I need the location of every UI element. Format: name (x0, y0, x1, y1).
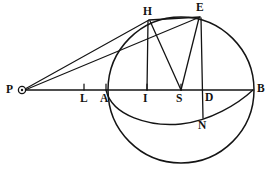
point-label-D: D (205, 92, 213, 104)
point-dot-P (21, 89, 23, 91)
perpendicular-line-EDN (201, 18, 203, 118)
geometry-figure: P L A I S D B H E N (0, 0, 273, 169)
perpendicular-line-HI (147, 21, 148, 90)
point-label-H: H (143, 6, 152, 18)
figure-canvas (0, 0, 273, 169)
point-label-I: I (143, 93, 147, 105)
segment-line-ES (181, 18, 199, 90)
point-label-A: A (100, 93, 108, 105)
ray-line-PH (25, 20, 149, 89)
point-label-N: N (198, 120, 206, 132)
point-label-L: L (80, 93, 88, 105)
ray-line-PE (25, 17, 200, 90)
point-label-B: B (257, 83, 265, 95)
point-label-E: E (196, 2, 204, 14)
point-label-S: S (176, 93, 182, 105)
point-label-P: P (6, 84, 13, 96)
